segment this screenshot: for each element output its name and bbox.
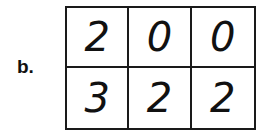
grid-cell: 2 [192,68,254,128]
digit-grid: 2 0 0 3 2 2 [65,6,256,130]
grid-cell: 2 [67,8,129,68]
grid-cell: 0 [129,8,191,68]
grid-cell: 0 [192,8,254,68]
grid-cell: 3 [67,68,129,128]
problem-label: b. [17,56,34,78]
grid-cell: 2 [129,68,191,128]
